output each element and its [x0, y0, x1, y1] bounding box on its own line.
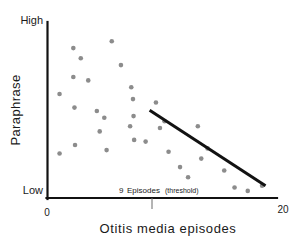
- data-point: [131, 97, 136, 102]
- data-point: [109, 39, 114, 44]
- data-point: [131, 114, 136, 119]
- data-point: [186, 175, 191, 180]
- data-point: [178, 165, 183, 170]
- data-point: [245, 189, 250, 194]
- data-point: [102, 116, 107, 121]
- data-point: [158, 126, 163, 131]
- y-axis-low-label: Low: [23, 184, 43, 196]
- data-point: [97, 129, 102, 134]
- y-axis-high-label: High: [20, 14, 43, 26]
- data-point: [128, 124, 133, 129]
- threshold-episodes-word: Episodes: [127, 186, 160, 195]
- data-point: [72, 105, 77, 110]
- data-point: [78, 56, 83, 61]
- data-point: [95, 109, 100, 114]
- data-point: [132, 138, 137, 143]
- data-point: [232, 185, 237, 190]
- data-point: [196, 124, 201, 129]
- data-point: [222, 168, 227, 173]
- data-point: [119, 63, 124, 68]
- y-axis-title: Paraphrase: [8, 74, 23, 145]
- data-point: [143, 139, 148, 144]
- data-point: [86, 78, 91, 83]
- threshold-parenthetical: (threshold): [165, 187, 198, 195]
- data-point: [57, 92, 62, 97]
- data-point: [154, 100, 159, 105]
- scatter-chart: High Low Paraphrase 0 20 Otitis media ep…: [0, 0, 298, 242]
- data-point: [104, 148, 109, 153]
- data-point: [73, 143, 78, 148]
- x-axis-max-label: 20: [277, 204, 289, 215]
- chart-canvas: High Low Paraphrase 0 20 Otitis media ep…: [0, 0, 298, 242]
- data-point: [199, 156, 204, 161]
- data-point: [166, 150, 171, 155]
- x-axis-title: Otitis media episodes: [100, 221, 237, 236]
- data-point: [71, 46, 76, 51]
- data-point: [57, 151, 62, 156]
- threshold-episode-count: 9: [119, 186, 124, 195]
- data-point: [129, 85, 134, 90]
- x-axis-origin-label: 0: [44, 207, 50, 218]
- data-point: [71, 75, 76, 80]
- trend-line: [150, 110, 266, 186]
